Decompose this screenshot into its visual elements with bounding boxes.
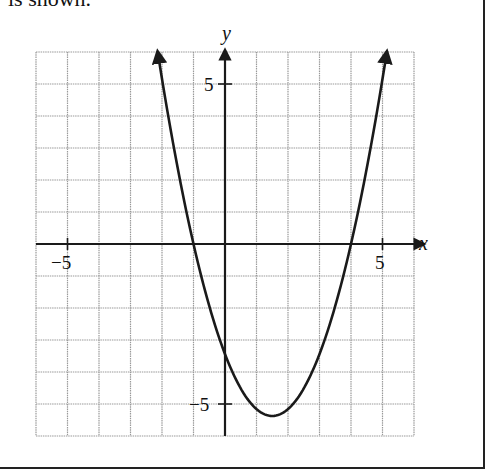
y-tick-label-5: 5 (204, 74, 214, 95)
x-tick-label-neg5: −5 (51, 252, 71, 273)
x-tick-label-5: 5 (375, 252, 385, 273)
parabola-graph: −5 5 5 −5 x y (0, 0, 494, 470)
x-axis-label: x (418, 232, 428, 254)
parabola-curve (158, 51, 387, 416)
axes (36, 50, 424, 436)
y-tick-label-neg5: −5 (189, 394, 209, 415)
y-axis-label: y (220, 22, 231, 45)
